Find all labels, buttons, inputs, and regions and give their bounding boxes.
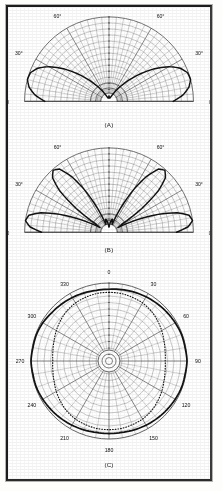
svg-text:150: 150	[149, 435, 158, 441]
polar-chart-c: 0306090120150180210240270300330	[8, 265, 210, 461]
svg-text:180: 180	[105, 447, 114, 453]
polar-chart-a: 030°60°90°60°30°0	[8, 11, 210, 121]
svg-text:0: 0	[8, 231, 10, 236]
panel-c-caption: (C)	[8, 461, 210, 468]
panel-c-plot: 0306090120150180210240270300330	[8, 265, 210, 461]
panel-a-caption: (A)	[8, 121, 210, 128]
svg-text:300: 300	[28, 313, 37, 319]
svg-text:60°: 60°	[157, 144, 165, 150]
svg-text:30°: 30°	[15, 181, 23, 187]
panel-a-plot: 030°60°90°60°30°0	[8, 11, 210, 121]
svg-text:120: 120	[182, 402, 191, 408]
panel-c: 0306090120150180210240270300330 (C)	[8, 265, 210, 477]
panel-b-plot: 030°60°90°60°30°0	[8, 142, 210, 246]
panel-b-caption: (B)	[8, 246, 210, 253]
svg-text:0: 0	[209, 100, 210, 105]
svg-text:60°: 60°	[157, 13, 165, 19]
polar-chart-b: 030°60°90°60°30°0	[8, 142, 210, 246]
svg-text:30°: 30°	[15, 50, 23, 56]
scanned-page: 030°60°90°60°30°0 (A) 030°60°90°60°30°0 …	[0, 0, 222, 491]
svg-text:240: 240	[28, 402, 37, 408]
svg-text:60: 60	[183, 313, 189, 319]
svg-text:90: 90	[195, 358, 201, 364]
svg-text:0: 0	[108, 269, 111, 275]
svg-text:30°: 30°	[195, 50, 203, 56]
svg-text:30°: 30°	[195, 181, 203, 187]
svg-text:60°: 60°	[54, 144, 62, 150]
svg-text:0: 0	[209, 231, 210, 236]
svg-text:0: 0	[8, 100, 10, 105]
svg-text:270: 270	[16, 358, 25, 364]
svg-text:330: 330	[60, 281, 69, 287]
svg-text:60°: 60°	[54, 13, 62, 19]
figure-frame: 030°60°90°60°30°0 (A) 030°60°90°60°30°0 …	[6, 5, 212, 481]
svg-text:210: 210	[60, 435, 69, 441]
panel-a: 030°60°90°60°30°0 (A)	[8, 11, 210, 139]
svg-text:30: 30	[151, 281, 157, 287]
panel-b: 030°60°90°60°30°0 (B)	[8, 142, 210, 264]
